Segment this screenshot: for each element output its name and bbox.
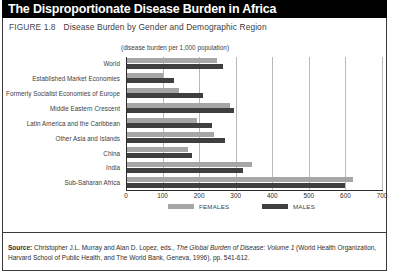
x-tick-label-500: 500 [304, 192, 315, 199]
chart-x-axis-line [126, 190, 383, 191]
source-note: Source: Christopher J.L. Murray and Alan… [8, 243, 380, 262]
chart-plot-area [126, 57, 382, 191]
legend-label-males: MALES [293, 203, 315, 210]
category-label-1: Established Market Economies [32, 75, 120, 82]
bar-males-2 [126, 93, 203, 98]
chart-y-axis-line [126, 57, 127, 191]
x-tick-label-400: 400 [267, 192, 278, 199]
bar-females-0 [126, 58, 217, 63]
chart-row [126, 131, 382, 146]
chart-bar-rows [126, 57, 382, 191]
bar-males-1 [126, 78, 174, 83]
x-tick-label-300: 300 [230, 192, 241, 199]
chart-subtitle: (disease burden per 1,000 population) [121, 44, 229, 51]
category-label-6: China [103, 150, 120, 157]
bar-females-4 [126, 118, 197, 123]
chart-row [126, 102, 382, 117]
category-label-0: World [103, 60, 120, 67]
breadcrumb: FIGURE 1.8 Disease Burden by Gender and … [9, 22, 267, 32]
legend-swatch-females [168, 204, 194, 209]
legend-item-males: MALES [262, 203, 315, 210]
bar-males-0 [126, 64, 223, 69]
category-label-7: India [106, 164, 120, 171]
bar-males-8 [126, 183, 345, 188]
chart-row [126, 72, 382, 87]
category-label-3: Middle Eastern Crescent [50, 105, 120, 112]
category-axis-labels: WorldEstablished Market EconomiesFormerl… [8, 57, 123, 191]
chart-legend: FEMALES MALES [126, 203, 383, 214]
bar-males-7 [126, 168, 243, 173]
category-label-5: Other Asia and Islands [56, 135, 120, 142]
bar-females-1 [126, 73, 163, 78]
bar-females-8 [126, 177, 353, 182]
source-text-lead: Christopher J.L. Murray and Alan D. Lope… [32, 244, 176, 251]
footer-divider [3, 232, 386, 233]
bar-males-3 [126, 108, 234, 113]
chart-row [126, 161, 382, 176]
category-label-8: Sub-Saharan Africa [64, 179, 120, 186]
category-label-4: Latin America and the Caribbean [27, 120, 120, 127]
page-title: The Disproportionate Disease Burden in A… [2, 2, 276, 16]
legend-swatch-males [262, 204, 288, 209]
bar-females-3 [126, 103, 230, 108]
x-tick-label-600: 600 [340, 192, 351, 199]
source-label: Source: [8, 244, 32, 251]
x-tick-label-0: 0 [124, 192, 128, 199]
category-label-2: Formerly Socialist Economies of Europe [6, 90, 120, 97]
bar-females-7 [126, 162, 252, 167]
figure-caption-label: Disease Burden by Gender and Demographic… [64, 22, 267, 32]
chart-row [126, 176, 382, 191]
figure-container: The Disproportionate Disease Burden in A… [0, 0, 397, 279]
legend-item-females: FEMALES [168, 203, 229, 210]
figure-number-label: FIGURE 1.8 [9, 22, 56, 32]
source-publication-title: The Global Burden of Disease: Volume 1 [176, 244, 294, 251]
x-tick-label-700: 700 [377, 192, 388, 199]
bar-males-5 [126, 138, 225, 143]
x-tick-label-200: 200 [194, 192, 205, 199]
bar-females-5 [126, 132, 214, 137]
bar-females-6 [126, 147, 188, 152]
chart-row [126, 57, 382, 72]
figure-header-bar: The Disproportionate Disease Burden in A… [2, 0, 387, 18]
bar-males-6 [126, 153, 192, 158]
chart-row [126, 117, 382, 132]
x-tick-label-100: 100 [157, 192, 168, 199]
bar-females-2 [126, 88, 179, 93]
legend-label-females: FEMALES [199, 203, 229, 210]
bar-males-4 [126, 123, 212, 128]
chart-row [126, 87, 382, 102]
chart-row [126, 146, 382, 161]
